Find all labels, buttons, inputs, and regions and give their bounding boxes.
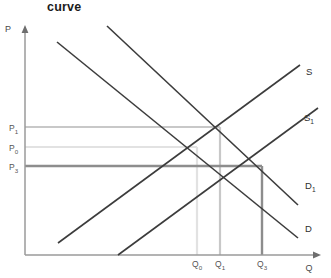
curve-line-demand	[57, 42, 298, 238]
quantity-tick-q0: Q0	[192, 259, 203, 271]
curve-label-demand-1: D1	[305, 180, 316, 193]
curve-line-supply	[58, 65, 300, 243]
supply-demand-chart: P Q P1 P0 P3 Q0 Q1 Q3 S S1 D1	[0, 0, 331, 278]
quantity-axis-label: Q	[305, 263, 312, 273]
supply-demand-figure: curve P Q P1	[0, 0, 331, 278]
curve-label-demand: D	[305, 223, 312, 234]
price-axis-label: P	[5, 24, 11, 34]
price-tick-p1: P1	[9, 123, 19, 135]
curve-line-demand-1	[107, 26, 298, 205]
quantity-tick-q1: Q1	[215, 259, 226, 271]
curve-label-supply: S	[306, 66, 312, 77]
curve-label-supply-1: S1	[304, 112, 314, 125]
quantity-axis-arrow	[313, 252, 321, 259]
quantity-tick-q3: Q3	[257, 259, 268, 271]
price-tick-p3: P3	[9, 162, 19, 174]
price-tick-p0: P0	[9, 143, 19, 155]
price-axis-arrow	[22, 25, 29, 33]
